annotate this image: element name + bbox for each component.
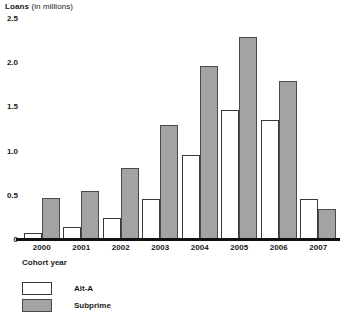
legend-label-alt-a: Alt-A <box>74 284 93 293</box>
legend-label-subprime: Subprime <box>74 301 111 310</box>
x-tick-label-2006: 2006 <box>259 243 299 252</box>
y-tick-label: 2.5 <box>7 14 18 23</box>
bar-alt-a-2007 <box>300 199 318 239</box>
plot-area: 00.51.01.52.02.5 <box>22 18 338 239</box>
y-tick-label: 1.0 <box>7 146 18 155</box>
y-axis-title-rest: (in millions) <box>29 2 73 11</box>
x-tick-label-2007: 2007 <box>299 243 339 252</box>
bar-group-2003 <box>141 18 181 239</box>
bar-group-2006 <box>259 18 299 239</box>
bar-alt-a-2003 <box>142 199 160 239</box>
bar-subprime-2002 <box>121 168 139 239</box>
bar-alt-a-2005 <box>221 110 239 239</box>
x-axis-labels: 20002001200220032004200520062007 <box>22 243 338 252</box>
bar-alt-a-2002 <box>103 218 121 239</box>
legend-item-alt-a: Alt-A <box>22 280 111 297</box>
y-tick-label: 0.5 <box>7 190 18 199</box>
bar-alt-a-2004 <box>182 155 200 239</box>
bar-alt-a-2006 <box>261 120 279 239</box>
bar-subprime-2001 <box>81 191 99 239</box>
x-axis-line <box>16 238 340 241</box>
y-axis-title-bold: Loans <box>5 2 29 11</box>
x-tick-label-2001: 2001 <box>62 243 102 252</box>
bar-groups <box>22 18 338 239</box>
bar-subprime-2007 <box>318 209 336 239</box>
legend-swatch-alt-a <box>22 282 52 295</box>
x-tick-label-2002: 2002 <box>101 243 141 252</box>
legend-item-subprime: Subprime <box>22 297 111 314</box>
bar-subprime-2003 <box>160 125 178 239</box>
x-tick-label-2000: 2000 <box>22 243 62 252</box>
x-tick-label-2004: 2004 <box>180 243 220 252</box>
x-tick-label-2003: 2003 <box>141 243 181 252</box>
y-tick-label: 2.0 <box>7 58 18 67</box>
bar-group-2004 <box>180 18 220 239</box>
y-axis-title: Loans (in millions) <box>5 2 73 11</box>
bar-subprime-2000 <box>42 198 60 239</box>
bar-group-2000 <box>22 18 62 239</box>
bar-subprime-2006 <box>279 81 297 239</box>
bar-subprime-2005 <box>239 37 257 239</box>
bar-group-2007 <box>299 18 339 239</box>
y-tick-label: 1.5 <box>7 102 18 111</box>
bar-group-2005 <box>220 18 260 239</box>
x-tick-label-2005: 2005 <box>220 243 260 252</box>
bar-subprime-2004 <box>200 66 218 239</box>
legend-swatch-subprime <box>22 299 52 312</box>
legend: Alt-ASubprime <box>22 280 111 314</box>
bar-group-2001 <box>62 18 102 239</box>
bar-chart: Loans (in millions) 00.51.01.52.02.5 200… <box>0 0 349 317</box>
bar-group-2002 <box>101 18 141 239</box>
x-axis-title: Cohort year <box>22 258 67 267</box>
